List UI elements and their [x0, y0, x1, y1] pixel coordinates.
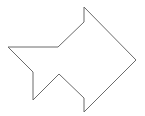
fish-shape-diagram — [0, 0, 145, 116]
fish-outline-polygon — [8, 7, 136, 112]
